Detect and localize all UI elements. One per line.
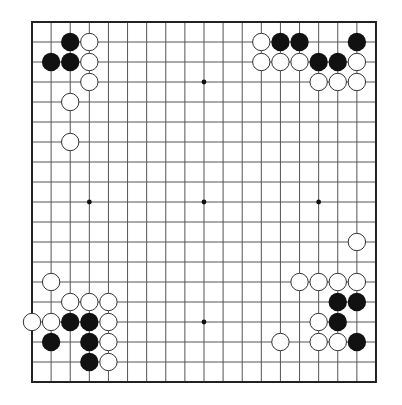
black-stone[interactable] xyxy=(80,333,98,351)
black-stone[interactable] xyxy=(329,53,347,71)
go-board-canvas[interactable] xyxy=(0,0,402,405)
black-stone[interactable] xyxy=(329,293,347,311)
black-stone[interactable] xyxy=(309,53,327,71)
black-stone[interactable] xyxy=(61,33,79,51)
star-point-icon xyxy=(202,320,207,325)
white-stone[interactable] xyxy=(81,53,98,70)
go-board[interactable] xyxy=(0,0,402,405)
white-stone[interactable] xyxy=(329,333,346,350)
white-stone[interactable] xyxy=(81,293,98,310)
black-stone[interactable] xyxy=(42,53,60,71)
white-stone[interactable] xyxy=(310,333,327,350)
star-point-icon xyxy=(87,200,92,205)
white-stone[interactable] xyxy=(310,73,327,90)
white-stone[interactable] xyxy=(329,273,346,290)
white-stone[interactable] xyxy=(253,33,270,50)
white-stone[interactable] xyxy=(348,273,365,290)
white-stone[interactable] xyxy=(253,53,270,70)
white-stone[interactable] xyxy=(348,53,365,70)
black-stone[interactable] xyxy=(348,333,366,351)
black-stone[interactable] xyxy=(80,313,98,331)
white-stone[interactable] xyxy=(42,273,59,290)
star-point-icon xyxy=(202,80,207,85)
white-stone[interactable] xyxy=(272,53,289,70)
white-stone[interactable] xyxy=(291,53,308,70)
black-stone[interactable] xyxy=(42,333,60,351)
black-stone[interactable] xyxy=(290,33,308,51)
white-stone[interactable] xyxy=(42,313,59,330)
white-stone[interactable] xyxy=(23,313,40,330)
black-stone[interactable] xyxy=(329,313,347,331)
white-stone[interactable] xyxy=(100,333,117,350)
white-stone[interactable] xyxy=(348,73,365,90)
star-point-icon xyxy=(316,200,321,205)
black-stone[interactable] xyxy=(348,33,366,51)
white-stone[interactable] xyxy=(329,73,346,90)
black-stone[interactable] xyxy=(271,33,289,51)
white-stone[interactable] xyxy=(100,353,117,370)
black-stone[interactable] xyxy=(61,53,79,71)
white-stone[interactable] xyxy=(62,133,79,150)
white-stone[interactable] xyxy=(291,273,308,290)
black-stone[interactable] xyxy=(61,313,79,331)
white-stone[interactable] xyxy=(310,313,327,330)
star-point-icon xyxy=(202,200,207,205)
white-stone[interactable] xyxy=(62,293,79,310)
white-stone[interactable] xyxy=(100,313,117,330)
white-stone[interactable] xyxy=(348,233,365,250)
white-stone[interactable] xyxy=(81,73,98,90)
black-stone[interactable] xyxy=(80,353,98,371)
white-stone[interactable] xyxy=(272,333,289,350)
white-stone[interactable] xyxy=(81,33,98,50)
black-stone[interactable] xyxy=(348,293,366,311)
white-stone[interactable] xyxy=(310,273,327,290)
white-stone[interactable] xyxy=(100,293,117,310)
white-stone[interactable] xyxy=(62,93,79,110)
